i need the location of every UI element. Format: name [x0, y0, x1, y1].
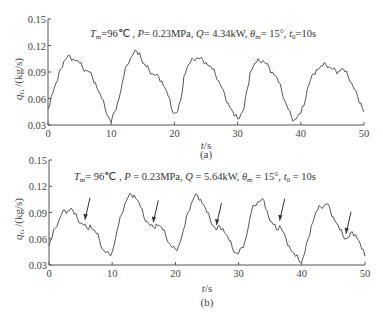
plot-line-a — [48, 50, 364, 122]
y-tick-label: 0.06 — [29, 234, 47, 245]
x-tick-label: 20 — [169, 128, 180, 139]
y-ticks-b: 0.030.060.090.120.15 — [29, 155, 52, 271]
x-tick-label: 40 — [297, 268, 308, 279]
x-tick-label: 40 — [296, 128, 307, 139]
y-tick-label: 0.12 — [28, 41, 46, 52]
caption-b: (b) — [201, 296, 214, 309]
plot-line-b — [49, 194, 365, 263]
annotation-a: Tm=96℃ , P= 0.23MPa, Q= 4.34kW, θm= 15°,… — [90, 28, 316, 41]
y-tick-label: 0.15 — [29, 155, 47, 166]
caption-a: (a) — [200, 148, 213, 161]
y-tick-label: 0.15 — [28, 14, 46, 25]
chart-panel-b: 0.030.060.090.120.15 01020304050 Tm= 96℃… — [12, 155, 370, 309]
y-tick-label: 0.09 — [28, 67, 46, 78]
x-tick-label: 50 — [359, 128, 370, 139]
figure: 0.030.060.090.120.15 01020304050 Tm=96℃ … — [0, 0, 383, 321]
y-tick-label: 0.03 — [29, 260, 47, 271]
x-tick-label: 10 — [106, 128, 117, 139]
x-tick-label: 10 — [107, 268, 118, 279]
x-tick-label: 30 — [232, 128, 243, 139]
chart-panel-a: 0.030.060.090.120.15 01020304050 Tm=96℃ … — [12, 14, 369, 161]
x-tick-label: 30 — [233, 268, 244, 279]
annotation-b: Tm= 96℃ , P = 0.23MPa, Q = 5.64kW, θm = … — [74, 171, 316, 184]
x-tick-label: 20 — [170, 268, 181, 279]
y-axis-title-b: qG /(kg/s) — [12, 198, 26, 240]
y-axis-title-a: qG /(kg/s) — [12, 58, 26, 100]
x-tick-label: 0 — [45, 128, 50, 139]
y-tick-label: 0.03 — [28, 120, 46, 131]
x-axis-title-b: t/s — [202, 282, 212, 294]
y-ticks-a: 0.030.060.090.120.15 — [28, 14, 51, 131]
x-tick-label: 50 — [360, 268, 371, 279]
y-tick-label: 0.09 — [29, 208, 47, 219]
x-tick-label: 0 — [46, 268, 51, 279]
y-tick-label: 0.12 — [29, 181, 47, 192]
y-tick-label: 0.06 — [28, 94, 46, 105]
